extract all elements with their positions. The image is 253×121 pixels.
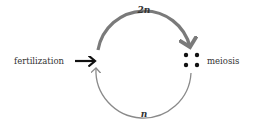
life-cycle-diagram: 2n n fertilization meiosis xyxy=(0,0,253,121)
fertilization-label: fertilization xyxy=(14,56,65,66)
diploid-arc xyxy=(98,11,190,50)
meiosis-dots-icon xyxy=(184,53,199,67)
meiosis-label: meiosis xyxy=(207,56,239,66)
diploid-label: 2n xyxy=(137,5,151,15)
haploid-label: n xyxy=(141,109,148,119)
